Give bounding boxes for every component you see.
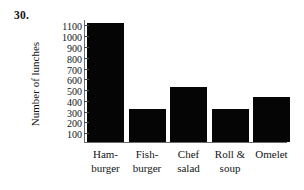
y-axis-tick-label: 600 [52,76,82,86]
x-axis-category-label-line2: soup [210,161,251,175]
x-axis-category-label: Roll &soup [210,147,251,175]
x-axis-category-label-line2: salad [168,161,209,175]
y-axis-tick-mark [84,90,89,91]
plot-area [84,18,288,143]
y-axis-tick-labels: 10020030040050060070080090010001100 [52,14,82,145]
y-axis-tick-mark [84,25,89,26]
bar [129,109,166,142]
y-axis-tick-label: 700 [52,66,82,76]
y-axis-tick-mark [84,112,89,113]
x-axis-category-label: Fish-burger [127,147,168,175]
y-axis-tick-mark [84,133,89,134]
y-axis-tick-mark [84,58,89,59]
y-axis-tick-label: 500 [52,87,82,97]
bar-series [87,18,287,142]
x-axis-category-label-line1: Fish- [127,147,168,161]
y-axis-tick-mark [84,122,89,123]
x-axis-category-label: Chefsalad [168,147,209,175]
y-axis-tick-label: 800 [52,55,82,65]
y-axis-tick-label: 400 [52,98,82,108]
x-axis-category-label-line1: Ham- [85,147,126,161]
y-axis-tick-label: 900 [52,44,82,54]
y-axis-line [84,20,85,143]
y-axis-tick-mark [84,69,89,70]
y-axis-tick-label: 1100 [52,22,82,32]
x-axis-category-label: Omelet [251,147,292,161]
y-axis-tick-label: 200 [52,119,82,129]
y-axis-tick-label: 300 [52,109,82,119]
y-axis-tick-mark [84,47,89,48]
y-axis-tick-mark [84,101,89,102]
x-axis-category-label-line2: burger [85,161,126,175]
y-axis-tick-mark [84,79,89,80]
bar [212,109,249,142]
bar [87,23,124,142]
bar [253,97,290,142]
problem-number: 30. [14,9,29,21]
x-axis-category-label-line1: Roll & [210,147,251,161]
x-axis-category-label-line1: Chef [168,147,209,161]
x-axis-category-label-line2: burger [127,161,168,175]
y-axis-tick-label: 100 [52,130,82,140]
x-axis-category-label-line1: Omelet [251,147,292,161]
bar [170,87,207,142]
y-axis-tick-mark [84,36,89,37]
bar-chart-figure: 30. Number of lunches 100200300400500600… [0,0,304,190]
y-axis-title: Number of lunches [29,24,41,144]
x-axis-category-labels: Ham-burgerFish-burgerChefsaladRoll &soup… [84,147,290,187]
x-axis-category-label: Ham-burger [85,147,126,175]
x-axis-line [84,142,287,143]
y-axis-tick-label: 1000 [52,33,82,43]
